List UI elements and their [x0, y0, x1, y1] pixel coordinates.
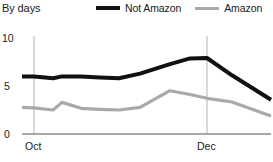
legend-item-amazon[interactable]: Amazon	[195, 2, 262, 14]
legend-item-not-amazon[interactable]: Not Amazon	[96, 2, 181, 14]
legend-swatch-amazon-icon	[195, 7, 219, 10]
legend-label-amazon: Amazon	[224, 2, 262, 14]
chart-legend: Not Amazon Amazon	[96, 2, 262, 14]
chart-title: By days	[2, 2, 40, 14]
y-tick-label-0: 0	[4, 128, 10, 140]
series-line-not-amazon	[22, 58, 271, 100]
legend-swatch-not-amazon-icon	[96, 6, 120, 10]
x-tick-label-dec: Dec	[197, 140, 216, 152]
y-tick-label-5: 5	[4, 80, 10, 92]
chart-header: By days Not Amazon Amazon	[0, 0, 273, 22]
chart-plot-area: 10 5 0 Oct Dec	[0, 22, 273, 162]
chart-container: By days Not Amazon Amazon 10 5 0 Oct De	[0, 0, 273, 162]
y-tick-label-10: 10	[2, 32, 14, 44]
x-tick-label-oct: Oct	[25, 140, 41, 152]
legend-label-not-amazon: Not Amazon	[125, 2, 181, 14]
series-line-amazon	[22, 91, 271, 116]
